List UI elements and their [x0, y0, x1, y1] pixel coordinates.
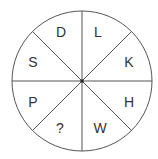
segment-label-top-right: L [94, 24, 102, 40]
segment-label-right-top: K [124, 54, 134, 70]
center-dot [81, 80, 84, 83]
segment-label-bottom-left: ? [56, 120, 64, 136]
segment-label-left-bottom: P [28, 94, 37, 110]
segment-label-left-top: S [28, 54, 37, 70]
letter-wheel: DLKHW?PS [0, 0, 158, 159]
segment-label-top-left: D [56, 24, 66, 40]
segment-label-right-bottom: H [124, 94, 134, 110]
segment-label-bottom-right: W [93, 120, 107, 136]
